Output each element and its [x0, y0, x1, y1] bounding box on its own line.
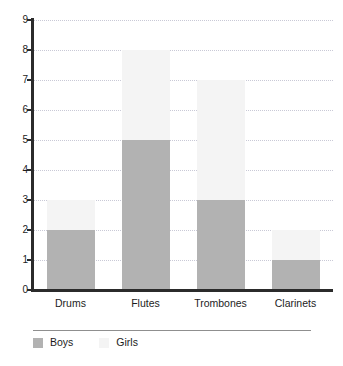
legend-label: Girls [116, 337, 138, 348]
bar-segment-girls [272, 230, 320, 260]
gridline [33, 20, 333, 21]
y-axis-tick-label: 2 [12, 225, 28, 235]
x-axis-line [31, 289, 333, 292]
y-axis-tick-mark [27, 199, 32, 201]
y-axis-line [31, 18, 34, 292]
legend-separator [33, 330, 311, 331]
plot-area [33, 20, 333, 290]
bar-stack [47, 200, 95, 290]
y-axis-tick-label: 7 [12, 75, 28, 85]
y-axis-tick-mark [27, 259, 32, 261]
chart-legend: BoysGirls [33, 337, 138, 348]
legend-swatch-girls [99, 338, 109, 348]
y-axis-tick-label: 1 [12, 255, 28, 265]
legend-item[interactable]: Girls [99, 337, 138, 348]
y-axis-tick-label: 4 [12, 165, 28, 175]
bar-segment-boys [47, 230, 95, 290]
y-axis-tick-mark [27, 49, 32, 51]
bar-segment-girls [122, 50, 170, 140]
gridline [33, 170, 333, 171]
y-axis-tick-mark [27, 109, 32, 111]
y-axis-tick-mark [27, 289, 32, 291]
y-axis-tick-mark [27, 169, 32, 171]
y-axis-tick-label: 5 [12, 135, 28, 145]
y-axis-tick-mark [27, 19, 32, 21]
gridline [33, 50, 333, 51]
bar-stack [272, 230, 320, 290]
y-axis-tick-mark [27, 139, 32, 141]
bar-segment-girls [197, 80, 245, 200]
y-axis-tick-labels: 0123456789 [8, 0, 28, 366]
y-axis-tick-label: 6 [12, 105, 28, 115]
bar-segment-girls [47, 200, 95, 230]
gridline [33, 80, 333, 81]
y-axis-tick-mark [27, 79, 32, 81]
legend-label: Boys [50, 337, 73, 348]
stacked-bar-chart: 0123456789 DrumsFlutesTrombonesClarinets… [0, 0, 343, 366]
bar-stack [197, 80, 245, 290]
bar-segment-boys [272, 260, 320, 290]
y-axis-tick-mark [27, 229, 32, 231]
bar-stack [122, 50, 170, 290]
gridline [33, 140, 333, 141]
bar-segment-boys [197, 200, 245, 290]
y-axis-tick-label: 3 [12, 195, 28, 205]
y-axis-tick-label: 0 [12, 285, 28, 295]
y-axis-tick-label: 9 [12, 15, 28, 25]
y-axis-tick-label: 8 [12, 45, 28, 55]
bar-segment-boys [122, 140, 170, 290]
legend-swatch-boys [33, 338, 43, 348]
x-axis-tick-label: Clarinets [251, 297, 341, 309]
gridline [33, 110, 333, 111]
legend-item[interactable]: Boys [33, 337, 73, 348]
